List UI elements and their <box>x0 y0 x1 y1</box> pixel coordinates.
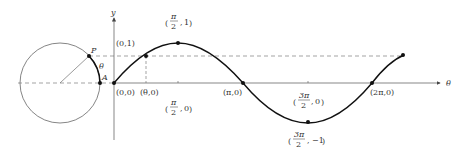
point-trough <box>306 120 310 124</box>
svg-text:2: 2 <box>171 108 176 117</box>
svg-text:): ) <box>189 105 192 114</box>
svg-text:): ) <box>321 98 324 107</box>
sine-unit-circle-diagram: y θ P A θ (0,1) (0,0) (θ,0) (π,0) (2π,0)… <box>0 0 464 154</box>
svg-text:3π: 3π <box>299 91 310 100</box>
svg-text:,: , <box>311 97 314 106</box>
svg-text:3π: 3π <box>294 130 305 139</box>
svg-text:(: ( <box>288 137 291 146</box>
label-2pi-0: (2π,0) <box>370 88 394 97</box>
label-three-half-pi-0: ( 3π 2 , 0 ) <box>293 91 324 110</box>
svg-text:(: ( <box>165 19 168 28</box>
label-trough: ( 3π 2 , −1 ) <box>288 130 325 149</box>
svg-text:π: π <box>170 12 177 21</box>
point-two-pi <box>370 81 374 85</box>
svg-text:,: , <box>180 104 183 113</box>
svg-text:,: , <box>307 136 310 145</box>
svg-text:0: 0 <box>315 97 320 106</box>
label-half-pi-0: ( π 2 , 0 ) <box>165 98 192 117</box>
svg-text:π: π <box>170 98 177 107</box>
arc-theta-label: θ <box>99 62 104 71</box>
point-theta-sin <box>144 54 148 58</box>
label-0-1: (0,1) <box>116 39 135 48</box>
label-origin: (0,0) <box>116 88 135 97</box>
svg-text:(: ( <box>165 105 168 114</box>
x-axis-label: θ <box>446 79 451 88</box>
svg-text:2: 2 <box>296 140 301 149</box>
point-pi <box>241 81 245 85</box>
svg-text:(: ( <box>293 98 296 107</box>
svg-text:2: 2 <box>301 101 306 110</box>
point-peak <box>176 41 180 45</box>
svg-text:): ) <box>189 19 192 28</box>
radius-line <box>60 56 89 83</box>
svg-text:): ) <box>322 137 325 146</box>
point-repeat <box>401 53 405 57</box>
svg-text:,: , <box>180 18 183 27</box>
label-peak: ( π 2 , 1 ) <box>165 12 192 31</box>
y-axis-label: y <box>110 8 116 17</box>
point-p-label: P <box>90 46 97 55</box>
point-a-label: A <box>101 73 108 82</box>
label-theta-0: (θ,0) <box>140 88 159 97</box>
svg-text:2: 2 <box>171 22 176 31</box>
point-origin <box>112 81 116 85</box>
label-pi-0: (π,0) <box>223 88 242 97</box>
